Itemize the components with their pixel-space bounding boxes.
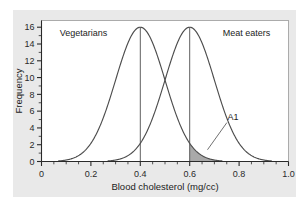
figure-root: 0 0.2 0.4 0.6 0.8 1.0 0 2 4 6 8 10 12 14…: [0, 0, 307, 209]
y-tick-label-5: 10: [24, 73, 34, 83]
x-axis-ticks: [42, 162, 289, 167]
y-axis-ticks: [37, 27, 42, 161]
y-tick-label-2: 4: [29, 123, 34, 133]
series-label-vegetarians: Vegetarians: [60, 28, 108, 38]
x-axis-title: Blood cholesterol (mg/cc): [111, 181, 218, 192]
y-tick-label-7: 14: [24, 39, 34, 49]
x-tick-label-4: 0.8: [233, 169, 246, 179]
y-tick-label-6: 12: [24, 56, 34, 66]
y-tick-label-1: 2: [29, 140, 34, 150]
x-tick-label-5: 1.0: [282, 169, 295, 179]
x-tick-label-0: 0: [39, 169, 44, 179]
y-tick-label-8: 16: [24, 22, 34, 32]
plot-area-background: [42, 21, 289, 162]
series-label-meat-eaters: Meat eaters: [223, 28, 271, 38]
y-tick-label-0: 0: [29, 157, 34, 167]
distribution-chart: 0 0.2 0.4 0.6 0.8 1.0 0 2 4 6 8 10 12 14…: [0, 0, 307, 209]
x-tick-label-1: 0.2: [85, 169, 98, 179]
y-tick-label-4: 8: [29, 90, 34, 100]
x-tick-label-2: 0.4: [134, 169, 147, 179]
y-tick-label-3: 6: [29, 106, 34, 116]
x-tick-label-3: 0.6: [183, 169, 196, 179]
y-axis-title: Frequency: [13, 68, 24, 113]
area-label-a1: A1: [227, 112, 238, 122]
